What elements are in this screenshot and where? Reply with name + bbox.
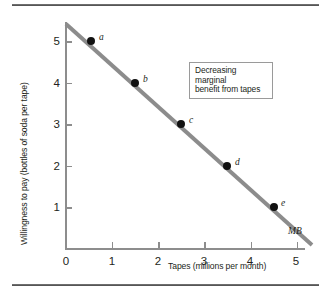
datapoint-label-e: e xyxy=(281,198,285,208)
annotation-line-3: benefit from tapes xyxy=(195,85,268,95)
datapoint-e xyxy=(270,203,278,211)
datapoint-label-b: b xyxy=(143,74,148,84)
datapoint-d xyxy=(223,162,231,170)
bottom-divider-rule xyxy=(12,284,319,286)
marginal-benefit-curve xyxy=(0,0,331,290)
datapoint-label-a: a xyxy=(99,32,104,42)
decreasing-marginal-benefit-note: Decreasing marginal benefit from tapes xyxy=(189,62,273,99)
figure-container: 5 4 3 2 1 0 1 2 3 4 5 Willingness to pay… xyxy=(0,0,331,290)
datapoint-label-c: c xyxy=(189,115,193,125)
datapoint-b xyxy=(131,79,139,87)
datapoint-label-d: d xyxy=(235,157,240,167)
curve-label-mb: MB xyxy=(288,226,302,236)
